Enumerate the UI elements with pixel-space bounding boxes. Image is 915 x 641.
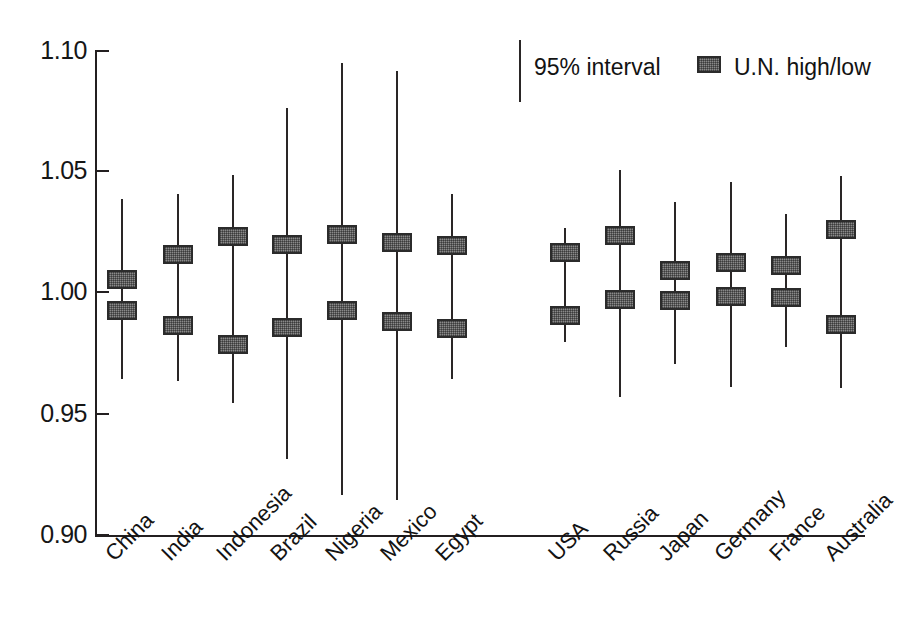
x-axis-label-usa: USA (543, 516, 593, 566)
y-tick-mark-1.00 (97, 291, 109, 293)
legend-label-interval: 95% interval (534, 54, 661, 81)
data-marker (716, 253, 746, 272)
legend-label-unhighlow: U.N. high/low (734, 54, 871, 81)
data-marker (771, 288, 801, 307)
data-marker (382, 312, 412, 331)
data-marker (660, 261, 690, 280)
data-marker (550, 306, 580, 325)
data-marker (218, 227, 248, 246)
data-marker (437, 319, 467, 338)
interval-line (341, 63, 343, 495)
data-marker (107, 301, 137, 320)
data-marker (550, 243, 580, 262)
x-axis-label-mexico: Mexico (375, 499, 443, 567)
interval-line (674, 202, 676, 364)
y-tick-mark-1.05 (97, 170, 109, 172)
interval-line (232, 175, 234, 403)
x-axis-label-australia: Australia (819, 487, 898, 566)
interval-line (396, 71, 398, 500)
data-marker (107, 270, 137, 289)
data-marker (437, 236, 467, 255)
data-marker (716, 287, 746, 306)
y-tick-label: 0.95 (25, 399, 87, 428)
y-tick-mark-0.90 (97, 534, 109, 536)
y-tick-label: 1.05 (25, 156, 87, 185)
data-marker (327, 225, 357, 244)
data-marker (272, 318, 302, 337)
data-marker (605, 290, 635, 309)
y-tick-label: 0.90 (25, 520, 87, 549)
data-marker (382, 233, 412, 252)
data-marker (771, 256, 801, 275)
data-marker (826, 220, 856, 239)
legend-square-icon (697, 56, 721, 73)
y-tick-label: 1.00 (25, 277, 87, 306)
chart-container: 1.10 1.05 1.00 0.95 0.90 95% interval U.… (0, 0, 915, 641)
data-marker (163, 316, 193, 335)
data-marker (272, 235, 302, 254)
interval-line (840, 176, 842, 388)
data-marker (327, 301, 357, 320)
data-marker (826, 315, 856, 334)
y-tick-label: 1.10 (25, 36, 87, 65)
y-axis-line (95, 50, 97, 537)
interval-line (286, 108, 288, 458)
x-axis-label-russia: Russia (598, 500, 664, 566)
y-tick-mark-0.95 (97, 413, 109, 415)
data-marker (218, 335, 248, 354)
interval-line (785, 214, 787, 347)
y-tick-mark-1.10 (97, 50, 109, 52)
data-marker (660, 291, 690, 310)
data-marker (163, 245, 193, 264)
interval-line (451, 194, 453, 378)
interval-line (121, 199, 123, 378)
interval-line (619, 170, 621, 397)
x-axis-label-india: India (156, 514, 208, 566)
data-marker (605, 226, 635, 245)
legend-interval-line-icon (519, 40, 521, 102)
interval-line (177, 194, 179, 381)
x-axis-label-nigeria: Nigeria (320, 499, 388, 567)
interval-line (730, 182, 732, 387)
